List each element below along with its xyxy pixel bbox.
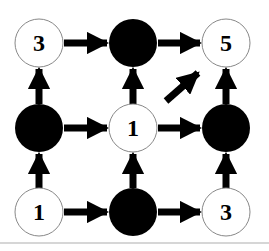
node-r2c1-filled (109, 188, 157, 236)
node-r0c0: 3 (15, 19, 63, 67)
node-r1c2-filled (202, 104, 250, 152)
grid-graph-diagram: 3 5 1 1 3 (0, 0, 269, 251)
node-label: 1 (127, 115, 139, 141)
node-r1c1: 1 (109, 104, 157, 152)
node-r0c2: 5 (202, 19, 250, 67)
edge-r1c1-r0c2-diagonal (166, 73, 198, 101)
node-r0c1-filled (109, 19, 157, 67)
node-r2c0: 1 (15, 188, 63, 236)
node-label: 1 (33, 199, 45, 225)
node-label: 3 (220, 199, 232, 225)
node-r1c0-filled (15, 104, 63, 152)
node-r2c2: 3 (202, 188, 250, 236)
node-label: 5 (220, 30, 232, 56)
node-label: 3 (33, 30, 45, 56)
